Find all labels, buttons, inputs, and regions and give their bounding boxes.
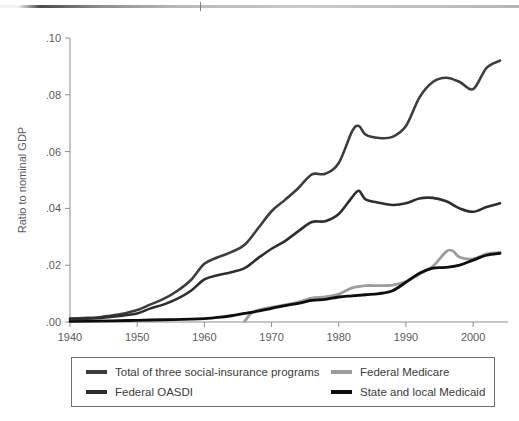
- legend-item-total: Total of three social-insurance programs: [72, 366, 317, 378]
- y-axis-tick-label: .10: [46, 32, 61, 44]
- chart-legend: Total of three social-insurance programs…: [71, 357, 495, 407]
- y-axis-tick-label: .00: [46, 316, 61, 328]
- legend-item-medicaid: State and local Medicaid: [317, 386, 496, 398]
- legend-swatch-icon: [86, 370, 107, 374]
- x-axis-tick-label: 1940: [58, 331, 82, 343]
- x-axis-tick-label: 2000: [461, 331, 485, 343]
- series-line-federal-medicare: [245, 250, 500, 321]
- legend-swatch-icon: [331, 370, 352, 374]
- legend-swatch-icon: [331, 390, 352, 394]
- y-axis-tick-label: .08: [46, 89, 61, 101]
- x-axis-tick-label: 1980: [327, 331, 351, 343]
- x-axis-tick-label: 1960: [192, 331, 216, 343]
- legend-label: Federal OASDI: [115, 386, 193, 398]
- legend-item-oasdi: Federal OASDI: [72, 386, 317, 398]
- legend-swatch-icon: [86, 390, 107, 394]
- legend-item-medicare: Federal Medicare: [317, 366, 496, 378]
- chart-series-group: [70, 61, 500, 322]
- legend-label: State and local Medicaid: [360, 386, 485, 398]
- y-axis-tick-label: .02: [46, 259, 61, 271]
- series-line-total-of-three-social-insurance-programs: [70, 61, 500, 319]
- x-axis-tick-label: 1990: [394, 331, 418, 343]
- chart-axes: [65, 38, 508, 327]
- x-axis-tick-label: 1950: [125, 331, 149, 343]
- legend-label: Total of three social-insurance programs: [115, 366, 320, 378]
- x-axis-tick-label: 1970: [259, 331, 283, 343]
- y-axis-tick-label: .04: [46, 202, 61, 214]
- legend-label: Federal Medicare: [360, 366, 449, 378]
- y-axis-title: Ratio to nominal GDP: [16, 127, 28, 233]
- y-axis-tick-label: .06: [46, 146, 61, 158]
- series-line-federal-oasdi: [70, 191, 500, 319]
- chart-axis-labels: .00.02.04.06.08.101940195019601970198019…: [16, 32, 485, 343]
